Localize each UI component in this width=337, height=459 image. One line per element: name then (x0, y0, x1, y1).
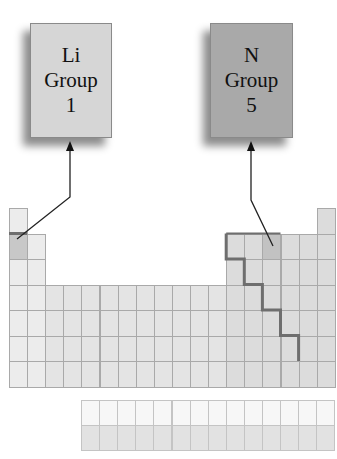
arrowhead-icon (247, 141, 255, 151)
leader-line-li (17, 146, 70, 239)
leader-line-n (251, 146, 273, 246)
arrowhead-icon (66, 141, 74, 151)
leader-lines (0, 0, 337, 459)
metalloid-staircase-line (226, 234, 298, 362)
